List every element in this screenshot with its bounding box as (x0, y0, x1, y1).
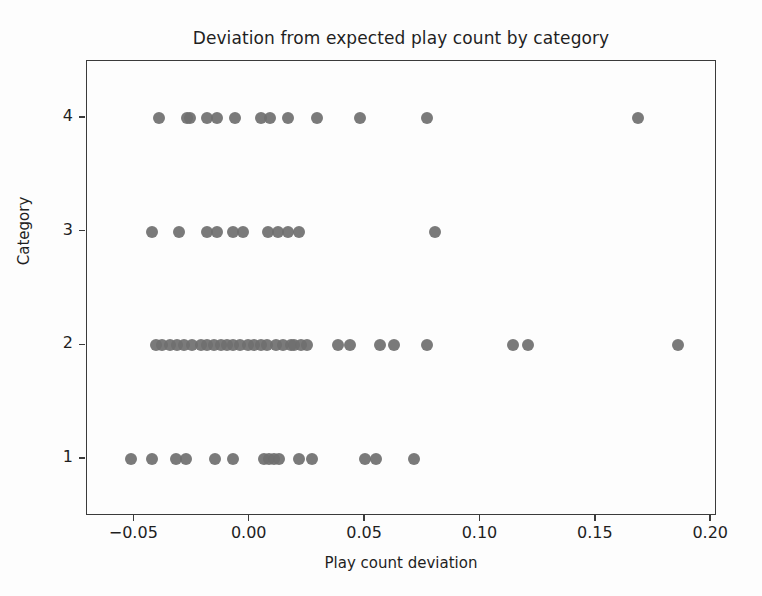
data-point (282, 112, 294, 124)
data-point (211, 226, 223, 238)
data-point (201, 226, 213, 238)
data-point (354, 112, 366, 124)
data-point (262, 226, 274, 238)
data-point (311, 112, 323, 124)
data-point (201, 339, 213, 351)
x-tick-mark (248, 515, 250, 521)
data-point (672, 339, 684, 351)
y-axis-label: Category (15, 151, 33, 311)
data-point (227, 339, 239, 351)
data-point (268, 453, 280, 465)
data-point (421, 339, 433, 351)
data-point (263, 453, 275, 465)
x-tick-label: 0.10 (434, 523, 524, 542)
data-point (215, 339, 227, 351)
data-point (248, 339, 260, 351)
y-tick-mark (79, 344, 85, 346)
data-point (522, 339, 534, 351)
data-point (301, 339, 313, 351)
data-point (264, 112, 276, 124)
data-point (374, 339, 386, 351)
data-point (156, 339, 168, 351)
data-point (201, 112, 213, 124)
data-point (273, 453, 285, 465)
data-point (295, 339, 307, 351)
x-tick-mark (479, 515, 481, 521)
x-tick-mark (133, 515, 135, 521)
data-point (178, 339, 190, 351)
data-point (429, 226, 441, 238)
data-point (181, 112, 193, 124)
data-point (359, 453, 371, 465)
data-point (408, 453, 420, 465)
x-tick-mark (363, 515, 365, 521)
data-point (209, 453, 221, 465)
data-point (344, 339, 356, 351)
data-point (211, 112, 223, 124)
data-point (332, 339, 344, 351)
plot-area (86, 60, 716, 515)
y-tick-mark (79, 116, 85, 118)
data-point (507, 339, 519, 351)
data-point (282, 226, 294, 238)
data-point (255, 112, 267, 124)
data-point (421, 112, 433, 124)
data-point (221, 339, 233, 351)
data-point (255, 339, 267, 351)
data-point (164, 339, 176, 351)
data-point (632, 112, 644, 124)
data-point (306, 453, 318, 465)
data-point (170, 453, 182, 465)
x-tick-mark (709, 515, 711, 521)
data-point (146, 226, 158, 238)
data-point (208, 339, 220, 351)
data-point (388, 339, 400, 351)
x-tick-label: −0.05 (88, 523, 178, 542)
data-point (285, 339, 297, 351)
x-tick-label: 0.00 (204, 523, 294, 542)
page-title: Deviation from expected play count by ca… (86, 28, 716, 48)
y-tick-label: 1 (45, 447, 73, 466)
data-point (173, 226, 185, 238)
data-point (227, 453, 239, 465)
data-point (184, 112, 196, 124)
data-point (261, 339, 273, 351)
data-point (171, 339, 183, 351)
data-point (258, 453, 270, 465)
data-point (272, 226, 284, 238)
data-point (277, 339, 289, 351)
x-tick-label: 0.20 (665, 523, 755, 542)
data-point (370, 453, 382, 465)
scatter-points-layer (87, 61, 715, 514)
data-point (242, 339, 254, 351)
x-tick-label: 0.15 (550, 523, 640, 542)
data-point (293, 453, 305, 465)
data-point (229, 112, 241, 124)
data-point (288, 339, 300, 351)
x-axis-label: Play count deviation (86, 554, 716, 572)
data-point (227, 226, 239, 238)
data-point (237, 226, 249, 238)
data-point (186, 339, 198, 351)
data-point (125, 453, 137, 465)
data-point (195, 339, 207, 351)
data-point (153, 112, 165, 124)
figure-canvas: Deviation from expected play count by ca… (0, 0, 762, 596)
data-point (270, 339, 282, 351)
x-tick-label: 0.05 (319, 523, 409, 542)
data-point (150, 339, 162, 351)
data-point (293, 226, 305, 238)
data-point (180, 453, 192, 465)
data-point (146, 453, 158, 465)
y-tick-mark (79, 457, 85, 459)
y-tick-label: 4 (45, 106, 73, 125)
y-tick-mark (79, 230, 85, 232)
y-tick-label: 2 (45, 333, 73, 352)
y-tick-label: 3 (45, 220, 73, 239)
data-point (234, 339, 246, 351)
x-tick-mark (594, 515, 596, 521)
